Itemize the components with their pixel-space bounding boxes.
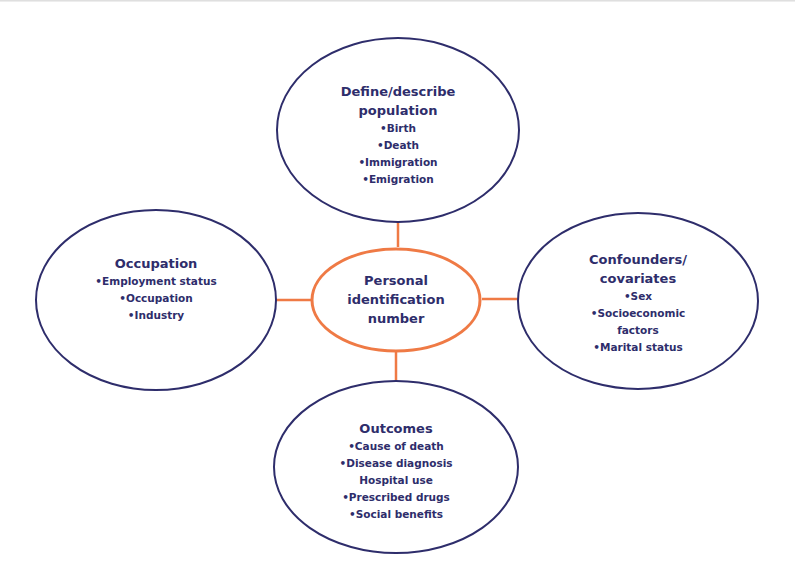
- node-occupation: Occupation •Employment status •Occupatio…: [58, 244, 254, 334]
- node-title: Outcomes: [359, 419, 432, 438]
- node-item: •Death: [377, 137, 419, 154]
- node-title: Confounders/: [589, 250, 687, 269]
- node-item: •Social benefits: [349, 506, 443, 523]
- node-item: •Socioeconomic: [591, 305, 686, 322]
- node-item: •Employment status: [95, 273, 216, 290]
- node-title: population: [359, 101, 438, 120]
- node-item: •Sex: [624, 288, 652, 305]
- node-title: Occupation: [115, 254, 198, 273]
- node-item: •Occupation: [119, 290, 192, 307]
- node-personal-id: Personal identification number: [316, 266, 476, 332]
- node-item: •Birth: [380, 120, 416, 137]
- node-item: •Prescribed drugs: [342, 489, 450, 506]
- node-item: factors: [617, 322, 659, 339]
- node-title: Define/describe: [341, 82, 456, 101]
- node-outcomes: Outcomes •Cause of death •Disease diagno…: [298, 414, 494, 528]
- node-item: •Emigration: [362, 171, 434, 188]
- center-title: Personal: [364, 271, 428, 290]
- node-item: •Industry: [128, 307, 184, 324]
- node-item: •Cause of death: [348, 438, 444, 455]
- center-title: identification: [347, 290, 444, 309]
- center-title: number: [368, 309, 425, 328]
- node-item: •Marital status: [593, 339, 682, 356]
- node-confounders: Confounders/ covariates •Sex •Socioecono…: [540, 242, 736, 364]
- node-define-population: Define/describe population •Birth •Death…: [300, 65, 496, 205]
- node-item: Hospital use: [359, 472, 433, 489]
- node-title: covariates: [600, 269, 676, 288]
- node-item: •Immigration: [358, 154, 437, 171]
- node-item: •Disease diagnosis: [339, 455, 452, 472]
